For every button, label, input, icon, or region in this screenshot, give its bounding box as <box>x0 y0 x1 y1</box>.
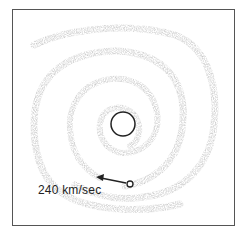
spiral-galaxy-diagram <box>0 0 248 237</box>
galactic-nucleus <box>111 112 135 136</box>
sun-velocity-arrow <box>96 174 126 183</box>
sun-marker <box>127 181 133 187</box>
velocity-label: 240 km/sec <box>38 183 101 197</box>
